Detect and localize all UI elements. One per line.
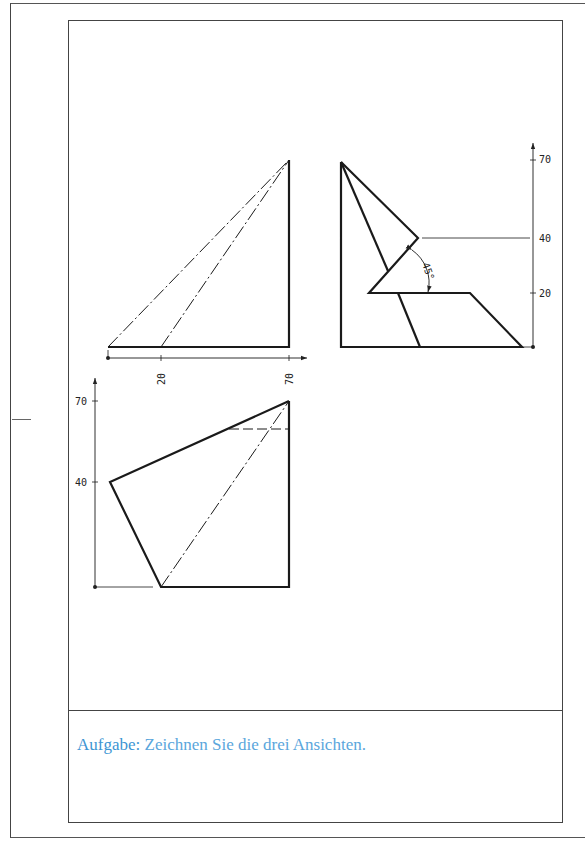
top-dim-40: 40	[75, 477, 87, 488]
task-instruction: Aufgabe: Zeichnen Sie die drei Ansichten…	[77, 735, 366, 755]
side-angle-45: 45°	[420, 261, 437, 282]
task-text: Zeichnen Sie die drei Ansichten.	[140, 735, 366, 754]
front-dim-20: 20	[156, 373, 167, 385]
top-dim-70: 70	[75, 396, 87, 407]
side-dim-20: 20	[539, 288, 551, 299]
front-view	[106, 160, 307, 361]
side-view	[341, 143, 536, 349]
task-label: Aufgabe:	[77, 735, 140, 754]
side-dim-40: 40	[539, 233, 551, 244]
side-dim-70: 70	[539, 154, 551, 165]
front-dim-70: 70	[284, 373, 295, 385]
top-view	[92, 378, 289, 589]
